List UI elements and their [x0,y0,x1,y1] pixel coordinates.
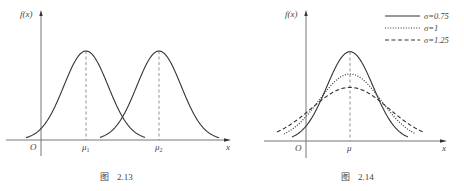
y-axis-label: f(x) [285,9,298,19]
y-axis-arrow-icon [39,10,42,16]
mu-label: μ [346,143,352,153]
legend-label-sigma-1.25: σ=1.25 [424,35,449,45]
curve-sigma-1.25 [277,87,424,132]
legend: σ=0.75 σ=1 σ=1.25 [385,11,449,45]
x-axis-label: x [441,143,446,153]
origin-label: O [30,142,37,152]
chart-fig-2-14: f(x) x O μ σ=0.75 σ=1 σ=1.25 图2.14 [264,9,449,182]
chart-fig-2-13: f(x) x O μ1 μ2 图2.13 [6,9,231,182]
legend-label-sigma-1: σ=1 [424,23,438,33]
mu1-label: μ1 [81,142,90,153]
curve-mu1 [26,51,145,138]
y-axis-label: f(x) [20,9,33,19]
legend-label-sigma-0.75: σ=0.75 [424,11,449,21]
y-axis-arrow-icon [304,10,307,16]
caption-fig-2-13: 图2.13 [100,172,133,182]
x-axis-label: x [225,142,230,152]
origin-label: O [295,143,302,153]
figure-canvas: f(x) x O μ1 μ2 图2.13 f(x) x O μ σ=0.75 σ… [0,0,464,191]
curve-mu2 [100,51,219,138]
caption-fig-2-14: 图2.14 [341,172,374,182]
mu2-label: μ2 [154,142,163,153]
